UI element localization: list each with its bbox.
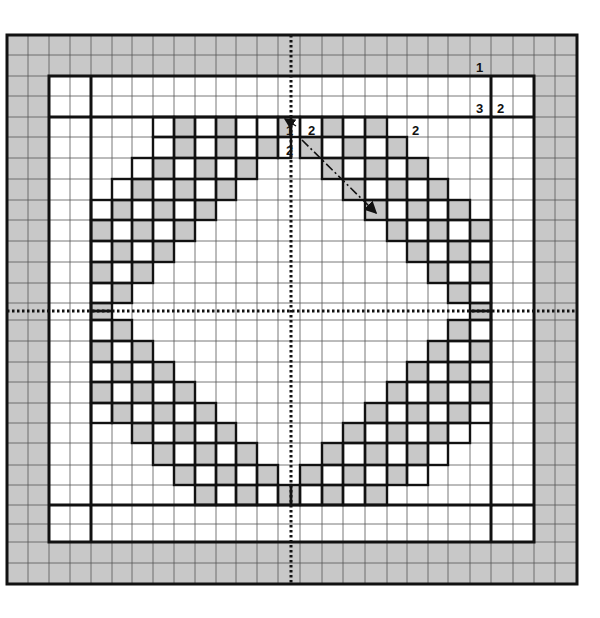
shaded-cell — [428, 382, 448, 403]
shaded-cell — [470, 382, 491, 403]
shaded-cell — [448, 362, 470, 382]
shaded-cell — [387, 465, 407, 485]
shaded-cell — [195, 158, 216, 179]
shaded-cell — [216, 179, 236, 200]
shaded-cell — [174, 382, 195, 403]
shaded-cell — [132, 382, 153, 403]
shaded-cell — [428, 423, 448, 443]
shaded-cell — [153, 241, 174, 262]
shaded-cell — [216, 465, 236, 485]
shaded-cell — [132, 262, 153, 283]
shaded-cell — [153, 200, 174, 220]
shaded-cell — [153, 403, 174, 423]
shaded-cell — [387, 179, 407, 200]
shaded-cell — [236, 158, 257, 179]
step-number-label: 2 — [497, 102, 504, 115]
shaded-cell — [365, 485, 387, 505]
shaded-cell — [195, 485, 216, 505]
shaded-cell — [322, 485, 343, 505]
shaded-cell — [236, 485, 257, 505]
shaded-cell — [174, 117, 195, 137]
shaded-cell — [132, 341, 153, 362]
shaded-cell — [365, 158, 387, 179]
shaded-cell — [112, 241, 132, 262]
shaded-cell — [132, 179, 153, 200]
shaded-cell — [387, 382, 407, 403]
shaded-cell — [407, 443, 428, 465]
shaded-cell — [91, 341, 112, 362]
shaded-cell — [365, 200, 387, 220]
shaded-cell — [216, 137, 236, 158]
shaded-cell — [407, 403, 428, 423]
shaded-cell — [112, 403, 132, 423]
shaded-cell — [91, 382, 112, 403]
shaded-cell — [387, 220, 407, 241]
shaded-cell — [153, 158, 174, 179]
shaded-cell — [343, 465, 365, 485]
shaded-cell — [216, 117, 236, 137]
shaded-cell — [216, 423, 236, 443]
shaded-cell — [257, 465, 278, 485]
shaded-cell — [407, 200, 428, 220]
step-number-label: 3 — [476, 102, 483, 115]
shaded-cell — [278, 485, 291, 505]
shaded-cell — [448, 283, 470, 303]
shaded-cell — [112, 362, 132, 382]
shaded-cell — [365, 117, 387, 137]
shaded-cell — [132, 423, 153, 443]
shaded-cell — [428, 262, 448, 283]
shaded-cell — [407, 158, 428, 179]
shaded-cell — [195, 200, 216, 220]
shaded-cell — [448, 241, 470, 262]
shaded-cell — [174, 220, 195, 241]
shaded-cell — [195, 403, 216, 423]
shaded-cell — [407, 241, 428, 262]
step-number-label: 2 — [308, 124, 315, 137]
shaded-cell — [174, 179, 195, 200]
shaded-cell — [112, 283, 132, 303]
shaded-cell — [387, 137, 407, 158]
shaded-cell — [470, 341, 491, 362]
shaded-cell — [470, 262, 491, 283]
shaded-cell — [428, 220, 448, 241]
step-number-label: 2 — [412, 124, 419, 137]
shaded-cell — [470, 220, 491, 241]
shaded-cell — [300, 465, 322, 485]
shaded-cell — [300, 137, 322, 158]
shaded-cell — [153, 362, 174, 382]
shaded-cell — [174, 137, 195, 158]
shaded-cell — [343, 137, 365, 158]
shaded-cell — [407, 362, 428, 382]
shaded-cell — [448, 320, 470, 341]
shaded-cell — [322, 443, 343, 465]
shaded-cell — [174, 465, 195, 485]
shaded-cell — [195, 443, 216, 465]
shaded-cell — [153, 443, 174, 465]
shaded-cell — [343, 423, 365, 443]
shaded-cell — [448, 200, 470, 220]
shaded-cell — [365, 443, 387, 465]
shaded-cell — [91, 262, 112, 283]
shaded-cell — [257, 137, 278, 158]
shaded-cell — [91, 220, 112, 241]
shaded-cell — [387, 423, 407, 443]
shaded-cell — [428, 341, 448, 362]
shaded-cell — [112, 200, 132, 220]
shaded-cell — [112, 320, 132, 341]
shaded-cell — [365, 403, 387, 423]
shaded-cell — [322, 117, 343, 137]
shaded-cell — [448, 403, 470, 423]
quilt-grid-diagram — [0, 0, 600, 618]
step-number-label: 2 — [286, 144, 293, 157]
shaded-cell — [322, 158, 343, 179]
shaded-cell — [343, 179, 365, 200]
shaded-cell — [174, 423, 195, 443]
step-number-label: 1 — [286, 124, 293, 137]
step-number-label: 1 — [476, 61, 483, 74]
shaded-cell — [236, 443, 257, 465]
shaded-cell — [428, 179, 448, 200]
shaded-cell — [132, 220, 153, 241]
